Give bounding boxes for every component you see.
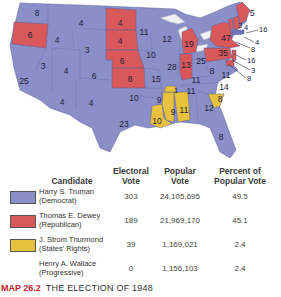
ev-label-south-dakota: 4 — [118, 36, 123, 46]
ev-label-nebraska: 6 — [120, 56, 125, 66]
ev-label-maine: 5 — [250, 8, 255, 18]
candidate-label: J. Strom Thurmond(States' Rights) — [39, 236, 103, 253]
ev-label-louisiana: 10 — [152, 116, 162, 126]
swatch-states-rights — [10, 239, 36, 252]
election-map: 8 6 25 4 3 4 3 4 6 4 4 4 4 6 8 10 23 11 … — [0, 0, 281, 160]
ev-label-idaho: 4 — [55, 35, 60, 45]
ev-label-kentucky: 11 — [192, 75, 201, 85]
electoral-vote: 0 — [108, 264, 154, 273]
ev-label-florida: 8 — [219, 132, 224, 142]
ev-label-new-york: 47 — [221, 33, 231, 43]
swatch-democrat — [10, 191, 36, 204]
ev-label-utah: 4 — [64, 66, 69, 76]
header-candidate: Candidate — [42, 176, 102, 186]
ev-label-delaware: 3 — [251, 66, 255, 75]
ev-label-california: 25 — [19, 76, 29, 86]
ev-label-north-carolina: 14 — [219, 82, 229, 92]
legend-row-wallace: Henry A. Wallace(Progressive) 0 1,156,10… — [0, 260, 281, 282]
ev-label-mississippi: 9 — [171, 107, 176, 117]
ev-label-ohio: 25 — [196, 56, 206, 66]
ev-label-washington: 8 — [35, 8, 40, 18]
ev-label-tennessee: 11 — [187, 86, 196, 96]
ev-label-massachusetts: 16 — [259, 25, 267, 34]
ev-label-rhode-island: 4 — [255, 38, 259, 47]
ev-label-minnesota: 11 — [140, 27, 149, 37]
ev-label-wisconsin: 12 — [162, 34, 172, 44]
popular-vote: 24,105,695 — [152, 192, 208, 201]
ev-label-colorado: 6 — [92, 71, 97, 81]
ev-label-new-jersey: 16 — [247, 56, 255, 65]
ev-label-missouri: 15 — [151, 74, 161, 84]
ev-label-nevada: 3 — [41, 61, 46, 71]
map-caption: MAP 26.2THE ELECTION OF 1948 — [1, 283, 153, 293]
ev-label-north-dakota: 4 — [118, 18, 123, 28]
ev-label-maryland: 8 — [247, 74, 251, 83]
ev-label-iowa: 10 — [146, 50, 156, 60]
header-popular-vote: Popular Vote — [158, 166, 202, 186]
ev-label-texas: 23 — [119, 119, 129, 129]
ev-label-arkansas: 9 — [157, 95, 162, 105]
popular-vote: 1,169,021 — [152, 240, 208, 249]
ev-label-tennessee-thurmond: 1 — [174, 86, 178, 95]
ev-label-pennsylvania: 35 — [218, 48, 228, 58]
ev-label-vermont: 3 — [238, 21, 242, 30]
candidate-label: Harry S. Truman(Democrat) — [39, 188, 94, 205]
electoral-vote: 303 — [108, 192, 154, 201]
percent-vote: 2.4 — [216, 240, 264, 249]
ev-label-alabama: 11 — [180, 105, 189, 115]
ev-label-kansas: 8 — [128, 74, 133, 84]
header-electoral-vote: Electoral Vote — [108, 166, 154, 186]
state-massachusetts — [232, 30, 244, 35]
ev-label-illinois: 28 — [167, 62, 177, 72]
header-percent: Percent of Popular Vote — [208, 166, 272, 186]
candidate-label: Thomas E. Dewey(Republican) — [39, 212, 100, 229]
ev-label-georgia: 12 — [204, 103, 214, 113]
popular-vote: 21,969,170 — [152, 216, 208, 225]
ev-label-arizona: 4 — [60, 97, 65, 107]
percent-vote: 45.1 — [216, 216, 264, 225]
ev-label-new-hampshire: 4 — [244, 23, 248, 32]
ev-label-virginia: 11 — [222, 70, 231, 80]
ev-label-montana: 4 — [79, 18, 84, 28]
legend-row-dewey: Thomas E. Dewey(Republican) 189 21,969,1… — [0, 212, 281, 234]
ev-label-connecticut: 8 — [251, 45, 255, 54]
legend-row-truman: Harry S. Truman(Democrat) 303 24,105,695… — [0, 188, 281, 210]
state-maryland-delaware — [226, 60, 234, 66]
percent-vote: 2.4 — [216, 264, 264, 273]
percent-vote: 49.5 — [216, 192, 264, 201]
ev-label-wyoming: 3 — [85, 45, 90, 55]
popular-vote: 1,156,103 — [152, 264, 208, 273]
candidate-label: Henry A. Wallace(Progressive) — [39, 260, 96, 277]
electoral-vote: 189 — [108, 216, 154, 225]
swatch-republican — [10, 215, 36, 228]
ev-label-south-carolina: 8 — [218, 94, 223, 104]
map-number: MAP 26.2 — [1, 283, 41, 293]
ev-label-michigan: 19 — [184, 39, 194, 49]
ev-label-oklahoma: 10 — [129, 93, 139, 103]
ev-label-oregon: 6 — [28, 30, 33, 40]
map-title: THE ELECTION OF 1948 — [46, 283, 153, 293]
ev-label-new-mexico: 4 — [89, 98, 94, 108]
ev-label-west-virginia: 8 — [210, 66, 215, 76]
legend-row-thurmond: J. Strom Thurmond(States' Rights) 39 1,1… — [0, 236, 281, 258]
ev-label-indiana: 13 — [181, 60, 191, 70]
electoral-vote: 39 — [108, 240, 154, 249]
